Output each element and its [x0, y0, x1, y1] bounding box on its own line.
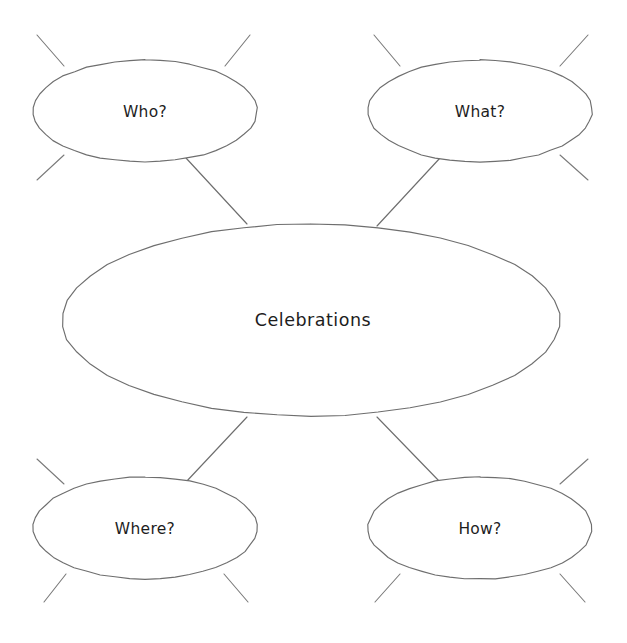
who-spoke-sw-line	[37, 155, 64, 180]
how-spoke-sw-line	[375, 574, 400, 602]
bubble-how[interactable]: How?	[368, 477, 592, 579]
center-bubble-label: Celebrations	[255, 310, 371, 330]
how-spoke-se-line	[560, 574, 585, 602]
where-spoke-sw-line	[44, 574, 66, 602]
who-to-center-connector	[186, 158, 247, 224]
who-spoke-ne-line	[225, 35, 250, 66]
center-bubble[interactable]: Celebrations	[63, 224, 560, 416]
bubble-how-label: How?	[458, 520, 501, 538]
bubble-who[interactable]: Who?	[33, 60, 257, 162]
how-spoke-ne-line	[560, 459, 588, 484]
bubble-where[interactable]: Where?	[33, 477, 257, 579]
concept-map-svg: Celebrations Who?What?Where?How?	[0, 0, 627, 643]
bubble-what-label: What?	[455, 103, 505, 121]
what-spoke-se-line	[560, 155, 588, 180]
what-to-center-connector	[377, 158, 440, 226]
how-to-center-connector	[377, 417, 440, 482]
bubble-who-label: Who?	[123, 103, 167, 121]
where-to-center-connector	[186, 417, 247, 482]
what-spoke-nw-line	[374, 35, 400, 66]
where-spoke-se-line	[224, 574, 248, 602]
what-spoke-ne-line	[560, 35, 588, 66]
concept-map-canvas: Celebrations Who?What?Where?How?	[0, 0, 627, 643]
bubble-what[interactable]: What?	[368, 60, 592, 163]
who-spoke-nw-line	[37, 35, 64, 66]
where-spoke-nw-line	[37, 459, 64, 484]
bubble-where-label: Where?	[115, 520, 175, 538]
